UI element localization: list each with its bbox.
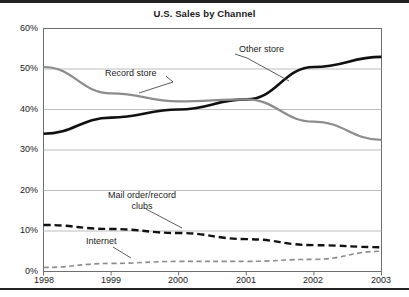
series-label-other-store: Other store — [239, 44, 284, 55]
y-tick-label-50: 50% — [4, 63, 38, 73]
series-label-internet: Internet — [86, 236, 117, 247]
x-tick-label-2002: 2002 — [293, 275, 333, 285]
line-chart-plot — [0, 0, 409, 297]
x-tick-label-1999: 1999 — [91, 275, 131, 285]
y-tick-label-10: 10% — [4, 225, 38, 235]
y-tick-label-30: 30% — [4, 144, 38, 154]
y-tick-label-40: 40% — [4, 104, 38, 114]
x-tick-label-2000: 2000 — [158, 275, 198, 285]
x-tick-label-2001: 2001 — [226, 275, 266, 285]
series-label-mail-order-line1: Mail order/record — [94, 190, 190, 201]
series-label-record-store: Record store — [105, 68, 157, 79]
y-tick-label-60: 60% — [4, 23, 38, 33]
chart-figure: U.S. Sales by Channel 60% 50% 40% 30% 20… — [0, 0, 409, 297]
x-tick-label-2003: 2003 — [361, 275, 401, 285]
y-tick-label-20: 20% — [4, 185, 38, 195]
x-tick-label-1998: 1998 — [24, 275, 64, 285]
series-label-mail-order-line2: clubs — [94, 201, 190, 212]
series-label-mail-order: Mail order/record clubs — [94, 190, 190, 212]
